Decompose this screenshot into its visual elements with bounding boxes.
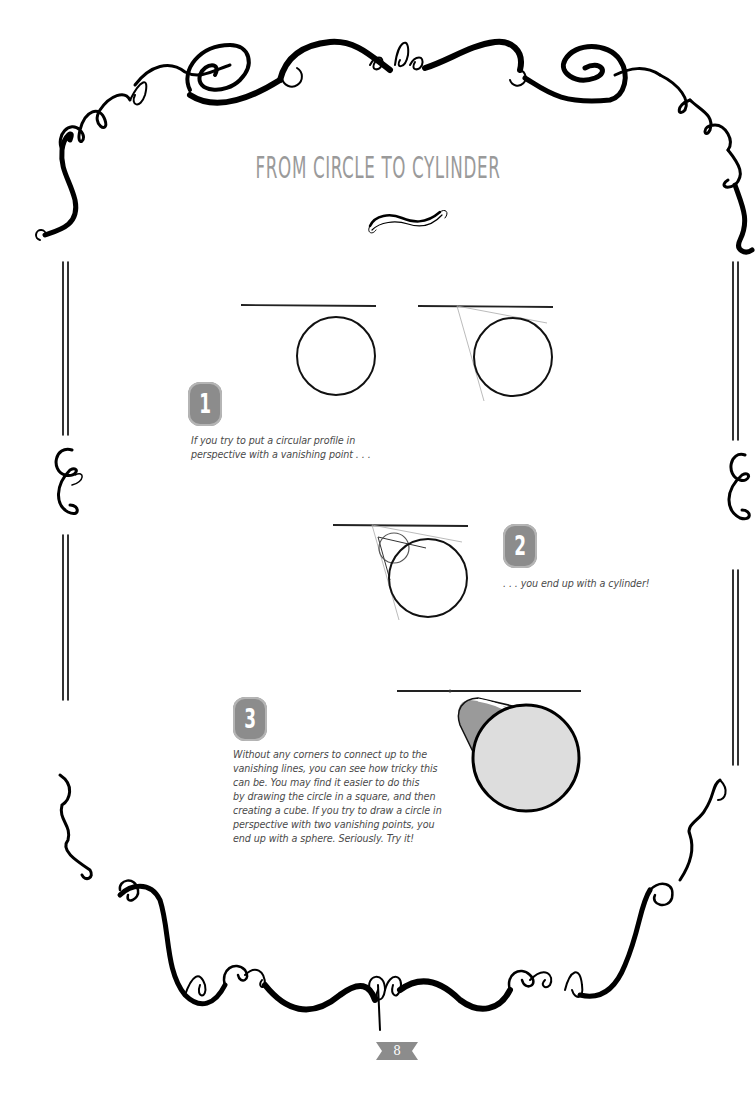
caption-line: If you try to put a circular profile in: [191, 434, 371, 448]
caption-line: by drawing the circle in a square, and t…: [233, 790, 442, 804]
caption-line: Without any corners to connect up to the: [233, 748, 442, 762]
illustrations: [0, 0, 756, 1100]
step-number: 1: [199, 389, 211, 419]
circle-with-small-circle: [333, 525, 468, 620]
step-caption-3: Without any corners to connect up to the…: [233, 748, 442, 846]
step-caption-2: . . . you end up with a cylinder!: [503, 577, 650, 591]
step-badge-3: 3: [233, 697, 267, 741]
caption-line: vanishing lines, you can see how tricky …: [233, 762, 442, 776]
step-number: 2: [514, 531, 526, 561]
caption-line: can be. You may find it easier to do thi…: [233, 776, 442, 790]
caption-line: creating a cube. If you try to draw a ci…: [233, 804, 442, 818]
page-number-ribbon: 8: [376, 1042, 418, 1060]
circle-with-tangent-lines: [418, 306, 553, 401]
caption-line: perspective with two vanishing points, y…: [233, 818, 442, 832]
caption-line: perspective with a vanishing point . . .: [191, 448, 371, 462]
step-badge-2: 2: [503, 524, 537, 568]
circle-with-horizon: [241, 305, 376, 395]
caption-line: . . . you end up with a cylinder!: [503, 577, 650, 591]
step-caption-1: If you try to put a circular profile in …: [191, 434, 371, 462]
step-badge-1: 1: [188, 382, 222, 426]
step-number: 3: [244, 704, 256, 734]
page-number: 8: [376, 1042, 418, 1060]
caption-line: end up with a sphere. Seriously. Try it!: [233, 832, 442, 846]
